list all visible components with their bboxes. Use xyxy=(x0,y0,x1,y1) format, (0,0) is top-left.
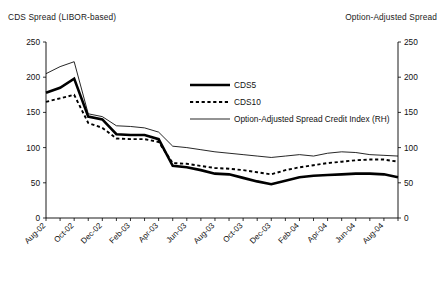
right-tick-label: 250 xyxy=(404,37,418,47)
x-tick-label: Feb-03 xyxy=(108,221,133,246)
x-tick-label: Apr-03 xyxy=(137,221,161,245)
x-tick-label: Jun-04 xyxy=(334,221,358,245)
left-tick-label: 150 xyxy=(26,107,40,117)
right-tick-label: 200 xyxy=(404,72,418,82)
x-tick-label: Dec-02 xyxy=(79,221,104,246)
left-tick-label: 50 xyxy=(31,178,41,188)
chart-legend: CDS5CDS10Option-Adjusted Spread Credit I… xyxy=(190,80,390,124)
series-line xyxy=(46,62,398,158)
right-tick-label: 0 xyxy=(404,213,409,223)
left-axis: 250200150100500 xyxy=(26,37,46,223)
chart-container: CDS Spread (LIBOR-based) Option-Adjusted… xyxy=(0,0,445,281)
right-tick-label: 150 xyxy=(404,107,418,117)
right-axis: 250200150100500 xyxy=(398,37,418,223)
x-tick-label: Feb-04 xyxy=(277,221,302,246)
plot-area: 250200150100500 250200150100500 Aug-02Oc… xyxy=(0,0,445,281)
legend-label: CDS10 xyxy=(234,97,261,107)
right-tick-label: 100 xyxy=(404,143,418,153)
legend-label: Option-Adjusted Spread Credit Index (RH) xyxy=(234,114,390,124)
x-tick-label: Aug-04 xyxy=(361,221,386,246)
left-tick-label: 100 xyxy=(26,143,40,153)
series-line xyxy=(46,95,398,175)
legend-label: CDS5 xyxy=(234,80,257,90)
left-tick-label: 250 xyxy=(26,37,40,47)
x-tick-label: Apr-04 xyxy=(306,221,330,245)
x-tick-label: Oct-03 xyxy=(221,221,245,245)
x-tick-label: Aug-02 xyxy=(23,221,48,246)
x-tick-label: Jun-03 xyxy=(165,221,189,245)
right-tick-label: 50 xyxy=(404,178,414,188)
x-tick-label: Aug-03 xyxy=(192,221,217,246)
x-tick-label: Oct-02 xyxy=(52,221,76,245)
x-tick-label: Dec-03 xyxy=(248,221,273,246)
left-tick-label: 200 xyxy=(26,72,40,82)
x-axis: Aug-02Oct-02Dec-02Feb-03Apr-03Jun-03Aug-… xyxy=(23,218,398,246)
